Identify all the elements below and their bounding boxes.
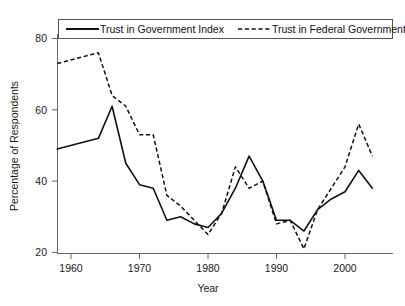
- x-tick-label-1960: 1960: [59, 262, 83, 274]
- legend-label-trust-in-government-index: Trust in Government Index: [100, 23, 225, 35]
- y-tick-label-20: 20: [35, 246, 47, 258]
- y-axis-title: Percentage of Respondents: [8, 81, 20, 211]
- chart-background: [0, 0, 405, 306]
- chart-legend: Trust in Government Index Trust in Feder…: [59, 20, 405, 39]
- chart-figure: 80 60 40 20 1960 1970 1980 1990 2000 Yea…: [0, 0, 405, 306]
- y-tick-label-80: 80: [35, 32, 47, 44]
- x-tick-label-1980: 1980: [196, 262, 220, 274]
- x-tick-label-2000: 2000: [333, 262, 357, 274]
- y-tick-label-60: 60: [35, 104, 47, 116]
- x-tick-label-1990: 1990: [265, 262, 289, 274]
- line-chart: 80 60 40 20 1960 1970 1980 1990 2000 Yea…: [0, 0, 405, 306]
- x-axis-title: Year: [197, 282, 219, 294]
- x-tick-label-1970: 1970: [128, 262, 152, 274]
- legend-label-trust-in-federal-government: Trust in Federal Government: [272, 23, 405, 35]
- y-tick-label-40: 40: [35, 175, 47, 187]
